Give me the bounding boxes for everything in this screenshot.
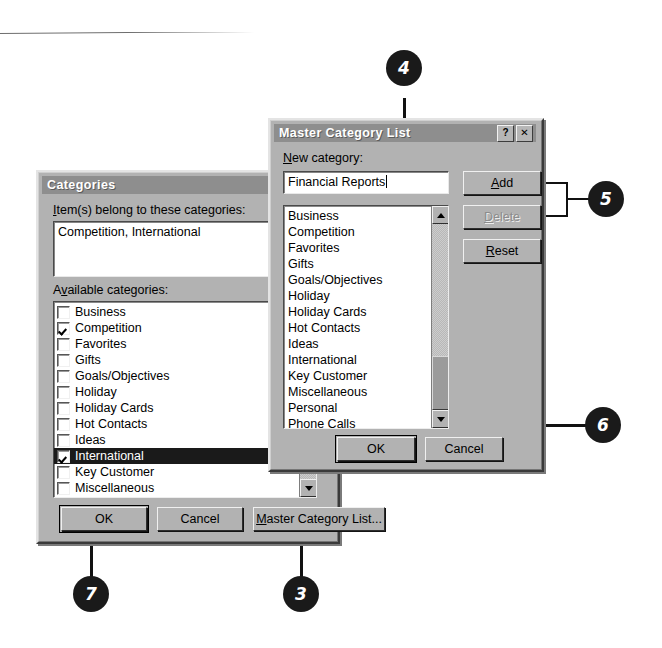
scroll-down-button-master[interactable]: [432, 410, 449, 428]
checkbox-icon[interactable]: [57, 306, 70, 319]
available-category-row[interactable]: Holiday: [54, 384, 299, 400]
checkbox-icon[interactable]: [57, 418, 70, 431]
checkbox-icon[interactable]: [57, 338, 70, 351]
available-category-row[interactable]: Key Customer: [54, 464, 299, 480]
master-titlebar-buttons: ? ✕: [497, 125, 533, 142]
master-scrollbar[interactable]: [431, 206, 448, 428]
master-category-item[interactable]: Miscellaneous: [284, 384, 431, 400]
help-button[interactable]: ?: [497, 125, 514, 142]
master-category-item[interactable]: Personal: [284, 400, 431, 416]
add-button-label: Add: [491, 176, 513, 190]
available-category-label: Hot Contacts: [75, 416, 147, 432]
categories-cancel-button[interactable]: Cancel: [157, 507, 243, 531]
master-category-listbox[interactable]: BusinessCompetitionFavoritesGiftsGoals/O…: [283, 205, 449, 429]
available-category-row[interactable]: Personal: [54, 496, 299, 498]
master-dialog-frame: Master Category List ? ✕ New category: F…: [270, 120, 542, 470]
reset-button[interactable]: Reset: [463, 239, 541, 263]
master-ok-button[interactable]: OK: [337, 437, 415, 461]
available-category-row[interactable]: Competition: [54, 320, 299, 336]
available-category-row[interactable]: Miscellaneous: [54, 480, 299, 496]
master-category-items: BusinessCompetitionFavoritesGiftsGoals/O…: [284, 208, 431, 429]
master-category-item[interactable]: Holiday Cards: [284, 304, 431, 320]
available-category-label: Competition: [75, 320, 142, 336]
checkbox-checked-icon[interactable]: [57, 450, 70, 463]
new-category-label: New category:: [283, 151, 363, 165]
callout-5: 5: [589, 182, 623, 216]
available-categories-label: Available categories:: [53, 283, 168, 297]
available-category-row[interactable]: Business: [54, 304, 299, 320]
checkbox-checked-icon[interactable]: [57, 322, 70, 335]
available-category-label: Gifts: [75, 352, 101, 368]
available-category-label: Holiday Cards: [75, 400, 154, 416]
callout-3: 3: [284, 577, 318, 611]
available-category-row[interactable]: International: [54, 448, 299, 464]
master-category-item[interactable]: Holiday: [284, 288, 431, 304]
checkbox-icon[interactable]: [57, 434, 70, 447]
leader-5-stem: [566, 198, 590, 200]
master-category-item[interactable]: Competition: [284, 224, 431, 240]
available-category-label: Business: [75, 304, 126, 320]
checkbox-icon[interactable]: [57, 466, 70, 479]
master-category-list-button[interactable]: Master Category List...: [253, 507, 385, 531]
master-category-item[interactable]: Hot Contacts: [284, 320, 431, 336]
master-category-item[interactable]: Business: [284, 208, 431, 224]
master-cancel-button[interactable]: Cancel: [425, 437, 503, 461]
available-category-row[interactable]: Gifts: [54, 352, 299, 368]
chevron-down-icon: [305, 486, 313, 491]
scrollbar-thumb[interactable]: [432, 356, 449, 410]
master-category-list-dialog: Master Category List ? ✕ New category: F…: [268, 118, 544, 472]
checkbox-icon[interactable]: [57, 482, 70, 495]
new-category-text: Financial Reports: [288, 175, 385, 189]
available-category-label: Ideas: [75, 432, 106, 448]
available-category-label: Key Customer: [75, 464, 154, 480]
available-category-row[interactable]: Ideas: [54, 432, 299, 448]
available-category-label: Favorites: [75, 336, 126, 352]
reset-button-label: Reset: [486, 244, 519, 258]
new-category-value: Financial Reports: [288, 175, 387, 189]
available-category-label: Goals/Objectives: [75, 368, 169, 384]
available-category-row[interactable]: Holiday Cards: [54, 400, 299, 416]
chevron-up-icon: [437, 213, 445, 218]
master-titlebar[interactable]: Master Category List ? ✕: [274, 124, 536, 142]
figure-canvas: Categories Item(s) belong to these categ…: [0, 0, 662, 648]
delete-button[interactable]: Delete: [463, 205, 541, 229]
items-belong-label: Item(s) belong to these categories:: [53, 203, 245, 217]
available-category-row[interactable]: Favorites: [54, 336, 299, 352]
available-category-row[interactable]: Hot Contacts: [54, 416, 299, 432]
chevron-down-icon: [437, 417, 445, 422]
master-title: Master Category List: [274, 126, 411, 140]
available-categories-items: BusinessCompetitionFavoritesGiftsGoals/O…: [54, 304, 299, 498]
page-top-rule: [0, 32, 662, 35]
checkbox-icon[interactable]: [57, 402, 70, 415]
master-category-item[interactable]: Key Customer: [284, 368, 431, 384]
text-caret: [386, 175, 387, 188]
categories-ok-button[interactable]: OK: [61, 507, 147, 531]
add-button[interactable]: Add: [463, 171, 541, 195]
master-category-item[interactable]: Phone Calls: [284, 416, 431, 429]
callout-4: 4: [387, 51, 421, 85]
available-category-label: Miscellaneous: [75, 480, 154, 496]
available-category-label: Personal: [75, 496, 124, 498]
master-category-item[interactable]: International: [284, 352, 431, 368]
categories-title: Categories: [42, 178, 116, 192]
master-category-list-button-label: Master Category List...: [256, 512, 382, 526]
checkbox-icon[interactable]: [57, 370, 70, 383]
available-category-label: Holiday: [75, 384, 117, 400]
callout-7: 7: [74, 577, 108, 611]
scroll-up-button[interactable]: [432, 206, 449, 224]
master-category-item[interactable]: Goals/Objectives: [284, 272, 431, 288]
scroll-down-button[interactable]: [300, 479, 317, 497]
available-category-label: International: [75, 448, 144, 464]
available-category-row[interactable]: Goals/Objectives: [54, 368, 299, 384]
checkbox-icon[interactable]: [57, 498, 70, 499]
items-belong-value: Competition, International: [58, 225, 200, 239]
delete-button-label: Delete: [484, 210, 520, 224]
master-category-item[interactable]: Favorites: [284, 240, 431, 256]
master-category-item[interactable]: Ideas: [284, 336, 431, 352]
master-category-item[interactable]: Gifts: [284, 256, 431, 272]
close-icon[interactable]: ✕: [516, 125, 533, 142]
new-category-field[interactable]: Financial Reports: [283, 171, 449, 194]
checkbox-icon[interactable]: [57, 386, 70, 399]
checkbox-icon[interactable]: [57, 354, 70, 367]
callout-6: 6: [586, 408, 620, 442]
